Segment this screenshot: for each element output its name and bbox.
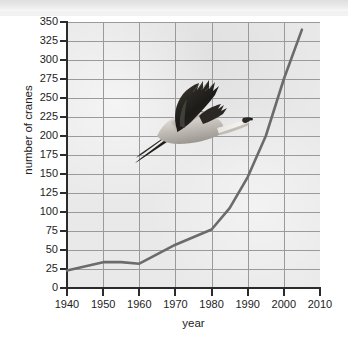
x-axis-tick-label: 1970 <box>155 299 195 310</box>
y-axis-tick <box>60 230 67 232</box>
y-axis-tick <box>60 97 67 99</box>
x-axis-tick <box>247 289 249 296</box>
y-axis-tick-label: 0 <box>16 282 58 293</box>
x-axis-tick-label: 1980 <box>192 299 232 310</box>
line-chart-figure: 0255075100125150175200225250275300325350… <box>0 0 348 338</box>
y-axis-tick-label: 25 <box>16 263 58 274</box>
y-axis-tick <box>60 211 67 213</box>
y-axis-tick <box>60 268 67 270</box>
y-axis-tick-label: 50 <box>16 244 58 255</box>
x-axis-tick-label: 1990 <box>228 299 268 310</box>
x-axis-tick-label: 2010 <box>300 299 340 310</box>
x-axis-tick-label: 1950 <box>83 299 123 310</box>
y-axis-tick <box>60 116 67 118</box>
y-axis-tick <box>60 154 67 156</box>
y-axis-tick <box>60 40 67 42</box>
x-axis-tick-label: 1960 <box>119 299 159 310</box>
x-axis-tick <box>174 289 176 296</box>
y-axis-tick <box>60 78 67 80</box>
x-axis-tick <box>66 289 68 296</box>
x-axis-tick <box>102 289 104 296</box>
y-axis-tick <box>60 192 67 194</box>
y-axis-tick-label: 75 <box>16 225 58 236</box>
y-axis-tick <box>60 173 67 175</box>
y-axis-tick <box>60 135 67 137</box>
y-axis-tick <box>60 59 67 61</box>
y-axis-tick <box>60 21 67 23</box>
x-axis-tick <box>211 289 213 296</box>
x-axis-title: year <box>67 317 320 329</box>
x-axis-tick-label: 1940 <box>47 299 87 310</box>
y-axis-tick-label: 350 <box>16 16 58 27</box>
x-axis-tick <box>283 289 285 296</box>
data-series-line <box>67 22 320 288</box>
y-axis-tick <box>60 249 67 251</box>
x-axis-tick <box>138 289 140 296</box>
y-axis-title: number of cranes <box>22 45 34 215</box>
x-axis-tick-label: 2000 <box>264 299 304 310</box>
x-axis-tick <box>319 289 321 296</box>
